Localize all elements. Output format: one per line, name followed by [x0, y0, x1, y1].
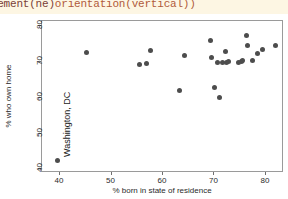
- data-point: [215, 60, 220, 65]
- data-point: [177, 88, 182, 93]
- y-axis-tick-label: 70: [35, 55, 44, 67]
- plot-panel: Washington, DC: [41, 20, 283, 172]
- data-point: [255, 51, 260, 56]
- data-point: [209, 55, 214, 60]
- data-point: [148, 48, 153, 53]
- x-axis-tick-label: 40: [55, 176, 64, 185]
- data-point: [260, 47, 265, 52]
- annotation-washington-dc: Washington, DC: [62, 92, 72, 157]
- data-point: [84, 50, 89, 55]
- data-point: [217, 95, 222, 100]
- data-point: [273, 43, 278, 48]
- data-point: [182, 53, 187, 58]
- data-point: [212, 85, 217, 90]
- x-axis-tick: [59, 172, 60, 175]
- y-axis-tick-label: 50: [35, 126, 44, 138]
- data-point: [250, 58, 255, 63]
- code-banner: lacement(ne)orientation(vertical)): [0, 0, 288, 14]
- data-point: [226, 59, 231, 64]
- x-axis-tick-label: 80: [261, 176, 270, 185]
- x-axis-tick: [213, 172, 214, 175]
- y-axis-title: % who own home: [2, 24, 14, 168]
- data-point: [223, 49, 228, 54]
- code-banner-function: lacement(ne): [0, 0, 55, 10]
- x-axis-tick-label: 50: [106, 176, 115, 185]
- x-axis-tick-label: 60: [158, 176, 167, 185]
- data-point: [244, 33, 249, 38]
- data-point: [137, 62, 142, 67]
- code-banner-text: lacement(ne)orientation(vertical)): [0, 0, 196, 11]
- data-point: [245, 43, 250, 48]
- y-axis-tick-label: 60: [35, 90, 44, 102]
- scatter-plot-figure: Washington, DC % born in state of reside…: [0, 14, 288, 199]
- data-point: [208, 38, 213, 43]
- data-point: [144, 61, 149, 66]
- y-axis-title-label: % who own home: [4, 64, 13, 127]
- y-axis-tick-label: 80: [35, 19, 44, 31]
- data-point: [240, 58, 245, 63]
- data-point: [55, 158, 60, 163]
- x-axis-tick-label: 70: [209, 176, 218, 185]
- x-axis-tick: [265, 172, 266, 175]
- x-axis-tick: [162, 172, 163, 175]
- y-axis-tick-label: 40: [35, 162, 44, 174]
- code-banner-argument: orientation(vertical)): [55, 0, 196, 10]
- x-axis-title: % born in state of residence: [41, 186, 283, 195]
- x-axis-tick: [111, 172, 112, 175]
